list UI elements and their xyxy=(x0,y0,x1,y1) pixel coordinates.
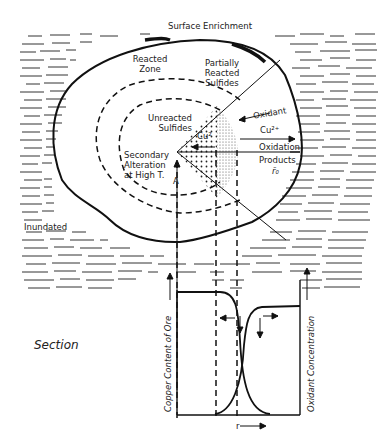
label-cu-outer: Cu²⁺ xyxy=(260,125,279,135)
label-line: Sulfides xyxy=(198,78,246,88)
axis-label-oxidant-concentration: Oxidant Concentration xyxy=(306,316,316,412)
label-surface-enrichment: Surface Enrichment xyxy=(168,21,252,31)
label-line: Alteration xyxy=(124,160,169,170)
label-line: Unreacted xyxy=(136,113,192,123)
label-reacted-zone: Reacted Zone xyxy=(130,54,170,74)
label-unreacted-sulfides: Unreacted Sulfides xyxy=(136,113,192,133)
ore-body-diagram xyxy=(0,0,390,442)
label-line: Zone xyxy=(130,64,170,74)
label-line: Partially xyxy=(198,58,246,68)
label-section: Section xyxy=(34,340,79,350)
label-line: Sulfides xyxy=(136,123,192,133)
label-inundated: Inundated xyxy=(24,222,67,232)
label-partially-reacted-sulfides: Partially Reacted Sulfides xyxy=(198,58,246,88)
ore-body-outline xyxy=(53,39,302,243)
label-point-a: A xyxy=(173,176,179,186)
label-r0: r̄₀ xyxy=(272,166,279,176)
axis-label-copper-content: Copper Content of Ore xyxy=(163,316,173,412)
label-cu-inner: Cu² xyxy=(197,131,212,141)
concentration-plot xyxy=(167,268,310,429)
label-line: Secondary xyxy=(124,150,169,160)
label-products: Products xyxy=(259,155,296,165)
axis-label-r: r xyxy=(236,421,240,431)
label-secondary-alteration: Secondary Alteration at High T. xyxy=(124,150,169,180)
label-oxidation: Oxidation xyxy=(259,142,300,152)
label-line: at High T. xyxy=(124,170,169,180)
label-line: Reacted xyxy=(198,68,246,78)
label-line: Reacted xyxy=(130,54,170,64)
